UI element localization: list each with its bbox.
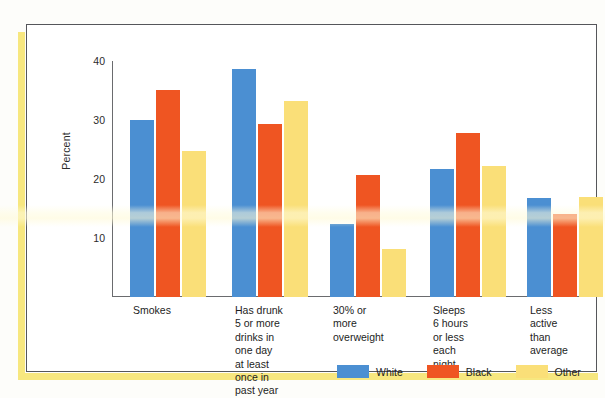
bar-white-group-3 (330, 224, 354, 297)
y-tick-label-20: 20 (79, 174, 105, 184)
category-label-5: Less active than average (530, 304, 568, 358)
category-label-4: Sleeps 6 hours or less each night (433, 304, 468, 371)
y-axis-title: Percent (60, 106, 72, 196)
legend-label-white: White (376, 366, 403, 378)
category-label-3: 30% or more overweight (333, 304, 384, 344)
decorative-yellow-left-rule (18, 32, 25, 380)
legend-item-white: White (337, 365, 403, 378)
bar-black-group-1 (156, 90, 180, 297)
bar-other-group-4 (482, 166, 506, 297)
legend-swatch-black (427, 365, 459, 378)
bar-groups (112, 61, 590, 297)
category-label-1: Smokes (133, 304, 171, 317)
bar-black-group-4 (456, 133, 480, 297)
bar-white-group-5 (527, 198, 551, 297)
bar-white-group-1 (130, 120, 154, 297)
legend-label-other: Other (555, 366, 581, 378)
chart-legend: WhiteBlackOther (337, 365, 605, 378)
chart-plot-area: 40302010 Percent SmokesHas drunk 5 or mo… (27, 25, 596, 371)
legend-swatch-white (337, 365, 369, 378)
bar-black-group-2 (258, 124, 282, 297)
bar-other-group-2 (284, 101, 308, 297)
figure-frame: 40302010 Percent SmokesHas drunk 5 or mo… (26, 24, 597, 372)
bar-other-group-1 (182, 151, 206, 297)
legend-label-black: Black (466, 366, 492, 378)
bar-black-group-5 (553, 214, 577, 297)
bar-white-group-2 (232, 69, 256, 297)
y-tick-label-10: 10 (79, 233, 105, 243)
bar-other-group-3 (382, 249, 406, 297)
category-label-2: Has drunk 5 or more drinks in one day at… (235, 304, 283, 398)
bar-other-group-5 (579, 197, 603, 297)
y-tick-label-30: 30 (79, 115, 105, 125)
bar-white-group-4 (430, 169, 454, 297)
legend-swatch-other (516, 365, 548, 378)
legend-item-other: Other (516, 365, 581, 378)
bar-black-group-3 (356, 175, 380, 297)
y-tick-label-40: 40 (79, 56, 105, 66)
legend-item-black: Black (427, 365, 492, 378)
